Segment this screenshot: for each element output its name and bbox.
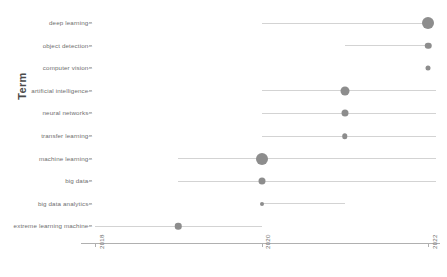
- range-line: [262, 113, 437, 114]
- chart-row: big data analytics–: [0, 193, 447, 215]
- range-line: [345, 45, 428, 46]
- y-axis-tick-label: machine learning–: [39, 148, 92, 170]
- y-axis-tick-mark: [89, 112, 92, 113]
- data-point-dot: [426, 66, 431, 71]
- y-axis-tick-mark: [89, 158, 92, 159]
- data-point-dot: [256, 153, 268, 165]
- chart-row: artificial intelligence–: [0, 80, 447, 102]
- chart-container: Term deep learning–object detection–comp…: [0, 0, 447, 277]
- y-axis-tick-label: artificial intelligence–: [31, 80, 92, 102]
- data-point-dot: [175, 223, 182, 230]
- x-axis-tick-mark: [428, 243, 429, 247]
- range-line: [262, 23, 429, 24]
- data-point-dot: [422, 17, 434, 29]
- range-line: [262, 136, 437, 137]
- y-axis-tick-label: deep learning–: [49, 12, 92, 34]
- data-point-dot: [340, 86, 349, 95]
- y-axis-tick-label: big data–: [65, 170, 92, 192]
- range-line: [178, 158, 436, 159]
- y-axis-tick-label: object detection–: [43, 35, 92, 57]
- chart-row: machine learning–: [0, 148, 447, 170]
- data-point-dot: [341, 110, 348, 117]
- range-line: [178, 181, 436, 182]
- x-axis-tick-label: 2022: [431, 234, 438, 249]
- chart-row: deep learning–: [0, 12, 447, 34]
- y-axis-tick-mark: [89, 90, 92, 91]
- x-axis-line: [81, 243, 440, 244]
- y-axis-tick-mark: [89, 225, 92, 226]
- chart-row: extreme learning machine–: [0, 215, 447, 237]
- y-axis-tick-mark: [89, 135, 92, 136]
- y-axis-tick-mark: [89, 67, 92, 68]
- x-axis-tick-label: 2018: [98, 234, 105, 249]
- data-point-dot: [342, 133, 348, 139]
- x-axis-tick-label: 2020: [264, 234, 271, 249]
- y-axis-tick-label: big data analytics–: [38, 193, 92, 215]
- range-line: [262, 203, 345, 204]
- chart-row: computer vision–: [0, 57, 447, 79]
- chart-row: neural networks–: [0, 102, 447, 124]
- x-axis-tick-mark: [95, 243, 96, 247]
- y-axis-tick-label: computer vision–: [43, 57, 92, 79]
- y-axis-tick-mark: [89, 203, 92, 204]
- chart-row: transfer learning–: [0, 125, 447, 147]
- y-axis-tick-label: neural networks–: [42, 102, 92, 124]
- y-axis-tick-label: transfer learning–: [41, 125, 92, 147]
- x-axis-tick-mark: [262, 243, 263, 247]
- chart-row: object detection–: [0, 35, 447, 57]
- y-axis-tick-mark: [89, 180, 92, 181]
- y-axis-tick-mark: [89, 45, 92, 46]
- data-point-dot: [258, 178, 265, 185]
- y-axis-tick-mark: [89, 22, 92, 23]
- data-point-dot: [425, 42, 432, 49]
- data-point-dot: [260, 202, 264, 206]
- y-axis-tick-label: extreme learning machine–: [14, 215, 92, 237]
- plot-area: deep learning–object detection–computer …: [0, 0, 447, 277]
- chart-row: big data–: [0, 170, 447, 192]
